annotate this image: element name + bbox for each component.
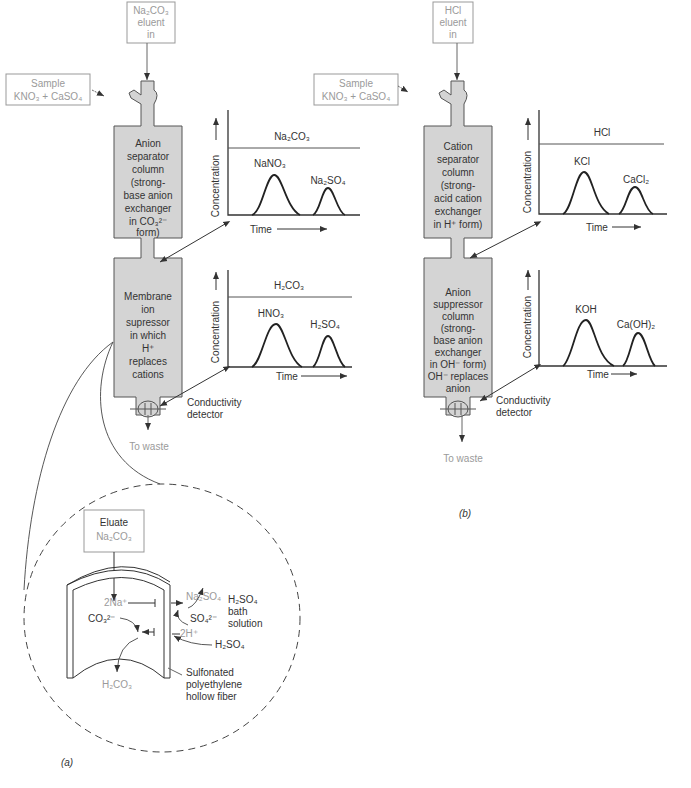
- svg-text:CO₃²⁻: CO₃²⁻: [88, 613, 115, 624]
- inset-leader-left: [24, 342, 113, 590]
- eluent-inlet-box-b: HCl eluent in: [433, 2, 473, 43]
- eluent-name: Na₂CO₃: [133, 5, 169, 16]
- svg-text:To waste: To waste: [443, 453, 483, 464]
- waste-label: To waste: [129, 441, 169, 452]
- caption-b: (b): [459, 508, 471, 519]
- svg-text:(strong-: (strong-: [131, 177, 165, 188]
- svg-text:form): form): [136, 227, 159, 238]
- svg-text:Na₂SO₄: Na₂SO₄: [310, 175, 345, 186]
- svg-text:polyethylene: polyethylene: [186, 679, 243, 690]
- svg-text:base anion: base anion: [124, 190, 173, 201]
- svg-text:(strong-: (strong-: [441, 180, 475, 191]
- svg-text:H₂CO₃: H₂CO₃: [274, 280, 304, 291]
- svg-text:OH⁻ replaces: OH⁻ replaces: [428, 371, 489, 382]
- svg-text:eluent: eluent: [439, 17, 466, 28]
- svg-text:CaCl₂: CaCl₂: [623, 174, 649, 185]
- sample-composition: KNO₃ + CaSO₄: [14, 91, 82, 102]
- svg-text:acid cation: acid cation: [434, 193, 482, 204]
- svg-text:Concentration: Concentration: [522, 151, 533, 213]
- conductivity-detector-icon: [130, 401, 166, 417]
- svg-text:Conductivity: Conductivity: [496, 395, 550, 406]
- svg-text:separator: separator: [437, 154, 480, 165]
- svg-text:Time: Time: [276, 371, 298, 382]
- svg-text:H₂SO₄: H₂SO₄: [310, 319, 340, 330]
- svg-text:KCl: KCl: [574, 156, 590, 167]
- svg-text:in CO₃²⁻: in CO₃²⁻: [129, 216, 167, 227]
- svg-text:detector: detector: [187, 409, 224, 420]
- anion-suppressor-text: Anion suppressor column (strong- base an…: [428, 287, 489, 394]
- svg-text:Sample: Sample: [339, 78, 373, 89]
- svg-text:Time: Time: [587, 369, 609, 380]
- svg-text:replaces: replaces: [129, 356, 167, 367]
- eluent-in-label: in: [147, 29, 155, 40]
- membrane-inset: Eluate Na₂CO₃ 2Na⁺ CO₃²⁻ H₂CO₃ Na₂SO₄ SO…: [67, 510, 262, 702]
- svg-text:KOH: KOH: [575, 304, 597, 315]
- svg-text:column: column: [442, 167, 474, 178]
- svg-text:hollow fiber: hollow fiber: [186, 691, 237, 702]
- sample-box-b: Sample KNO₃ + CaSO₄: [314, 74, 398, 105]
- svg-text:in H⁺ form): in H⁺ form): [434, 219, 483, 230]
- svg-text:base anion: base anion: [434, 335, 483, 346]
- svg-text:column: column: [442, 311, 474, 322]
- svg-text:Ca(OH)₂: Ca(OH)₂: [617, 319, 655, 330]
- svg-text:SO₄²⁻: SO₄²⁻: [190, 613, 217, 624]
- svg-text:Anion: Anion: [445, 287, 471, 298]
- svg-text:suppressor: suppressor: [433, 299, 483, 310]
- svg-text:in: in: [449, 29, 457, 40]
- detector-label: Conductivity: [187, 397, 241, 408]
- svg-text:exchanger: exchanger: [125, 203, 172, 214]
- panel-b: HCl eluent in Sample KNO₃ + CaSO₄ Cation…: [314, 2, 667, 519]
- svg-text:H₂CO₃: H₂CO₃: [102, 679, 132, 690]
- sample-arrow-icon: [92, 90, 104, 96]
- chart-a-top: Na₂CO₃ NaNO₃ Na₂SO₄ Concentration Time: [210, 110, 360, 235]
- panel-a: Na₂CO₃ eluent in Sample KNO₃ + CaSO₄ Ani…: [6, 2, 360, 768]
- svg-text:Sulfonated: Sulfonated: [186, 667, 234, 678]
- svg-text:solution: solution: [228, 618, 262, 629]
- svg-text:Membrane: Membrane: [124, 291, 172, 302]
- svg-text:Anion: Anion: [135, 138, 161, 149]
- svg-text:KNO₃ + CaSO₄: KNO₃ + CaSO₄: [322, 91, 390, 102]
- svg-text:Na₂CO₃: Na₂CO₃: [96, 531, 132, 542]
- svg-text:HCl: HCl: [445, 5, 462, 16]
- svg-text:Concentration: Concentration: [522, 296, 533, 358]
- svg-text:separator: separator: [127, 151, 170, 162]
- svg-text:supressor: supressor: [126, 317, 171, 328]
- cation-separator-text: Cation separator column (strong- acid ca…: [434, 141, 483, 230]
- svg-text:Concentration: Concentration: [210, 155, 221, 217]
- svg-text:H₂SO₄: H₂SO₄: [215, 639, 245, 650]
- svg-text:HCl: HCl: [594, 127, 611, 138]
- svg-text:column: column: [132, 164, 164, 175]
- chart-b-top: HCl KCl CaCl₂ Concentration Time: [522, 110, 667, 233]
- chart-b-bottom: KOH Ca(OH)₂ Concentration Time: [522, 270, 667, 380]
- caption-a: (a): [61, 757, 73, 768]
- ion-chromatography-diagram: Na₂CO₃ eluent in Sample KNO₃ + CaSO₄ Ani…: [0, 0, 691, 788]
- svg-text:exchanger: exchanger: [435, 347, 482, 358]
- svg-text:detector: detector: [496, 407, 533, 418]
- sample-box: Sample KNO₃ + CaSO₄: [6, 74, 90, 105]
- svg-text:NaNO₃: NaNO₃: [254, 158, 286, 169]
- eluent-label: eluent: [137, 17, 164, 28]
- svg-text:Concentration: Concentration: [210, 301, 221, 363]
- svg-text:cations: cations: [132, 369, 164, 380]
- svg-text:Na₂SO₄: Na₂SO₄: [186, 591, 221, 602]
- svg-text:Cation: Cation: [444, 141, 473, 152]
- conductivity-detector-b-icon: [440, 401, 476, 417]
- svg-text:Time: Time: [250, 224, 272, 235]
- sample-arrow-b-icon: [398, 86, 408, 92]
- sample-label: Sample: [31, 78, 65, 89]
- svg-text:2H⁺: 2H⁺: [180, 628, 198, 639]
- svg-text:Eluate: Eluate: [100, 517, 129, 528]
- svg-text:HNO₃: HNO₃: [258, 308, 284, 319]
- chart-a-bottom: H₂CO₃ HNO₃ H₂SO₄ Concentration Time: [210, 270, 352, 382]
- svg-text:H⁺: H⁺: [142, 343, 154, 354]
- svg-text:in which: in which: [130, 330, 166, 341]
- svg-text:anion: anion: [446, 383, 470, 394]
- svg-text:H₂SO₄: H₂SO₄: [228, 594, 258, 605]
- svg-text:Time: Time: [586, 222, 608, 233]
- svg-text:exchanger: exchanger: [435, 206, 482, 217]
- eluent-inlet-box: Na₂CO₃ eluent in: [127, 2, 175, 43]
- svg-text:ion: ion: [141, 304, 154, 315]
- svg-text:(strong-: (strong-: [441, 323, 475, 334]
- svg-text:2Na⁺: 2Na⁺: [104, 597, 127, 608]
- svg-text:bath: bath: [228, 606, 247, 617]
